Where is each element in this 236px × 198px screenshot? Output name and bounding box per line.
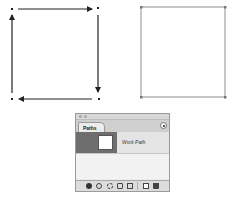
- paths-panel: Paths Work Path: [75, 113, 170, 192]
- path-list-empty-area: [76, 154, 169, 179]
- anchor-point: [11, 98, 13, 100]
- toolbar-separator: [137, 182, 138, 190]
- panel-menu-icon[interactable]: [160, 122, 167, 129]
- right-path-figure: [140, 6, 227, 99]
- new-path-icon[interactable]: [143, 183, 149, 189]
- minimize-icon[interactable]: [84, 115, 87, 118]
- anchor-point: [224, 6, 227, 9]
- path-name: Work Path: [122, 139, 145, 145]
- stroke-path-icon[interactable]: [96, 183, 102, 189]
- add-mask-icon[interactable]: [127, 183, 133, 189]
- fill-path-icon[interactable]: [86, 183, 92, 189]
- make-work-path-icon[interactable]: [117, 183, 123, 189]
- canvas: [0, 0, 236, 112]
- paths-toolbar: [76, 180, 169, 191]
- anchor-point: [11, 8, 13, 10]
- left-path-figure: [11, 7, 100, 100]
- anchor-point: [140, 6, 143, 9]
- anchor-point: [97, 7, 99, 9]
- delete-path-icon[interactable]: [153, 183, 159, 189]
- anchor-point: [224, 96, 227, 99]
- anchor-point: [140, 96, 143, 99]
- path-row-work-path[interactable]: Work Path: [76, 132, 169, 154]
- path-thumbnail: [98, 135, 113, 150]
- stroked-rectangle: [141, 7, 225, 97]
- load-selection-icon[interactable]: [107, 183, 113, 189]
- close-icon[interactable]: [79, 115, 82, 118]
- anchor-point: [98, 98, 100, 100]
